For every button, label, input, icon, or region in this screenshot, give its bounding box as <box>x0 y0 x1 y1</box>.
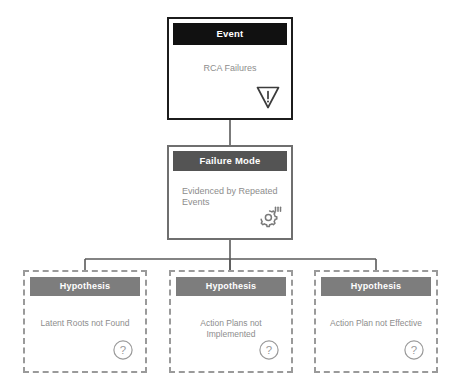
svg-text:?: ? <box>411 344 417 356</box>
gear-motion-icon <box>254 203 282 231</box>
node-hypothesis-3[interactable]: Hypothesis Action Plan not Effective ? <box>314 270 438 373</box>
node-hypothesis-3-text: Action Plan not Effective <box>329 318 423 329</box>
node-hypothesis-1-text: Latent Roots not Found <box>38 318 132 329</box>
svg-text:?: ? <box>120 344 126 356</box>
node-hypothesis-2[interactable]: Hypothesis Action Plans not Implemented … <box>169 270 293 373</box>
node-hypothesis-2-body: Action Plans not Implemented ? <box>176 296 286 366</box>
diagram-canvas: Event RCA Failures Failure Mode Evidence… <box>0 0 459 390</box>
node-hypothesis-3-body: Action Plan not Effective ? <box>321 296 431 366</box>
question-circle-icon: ? <box>112 339 134 361</box>
question-circle-icon: ? <box>403 339 425 361</box>
node-hypothesis-1-header: Hypothesis <box>30 277 140 296</box>
node-hypothesis-2-text: Action Plans not Implemented <box>184 318 278 340</box>
node-event-text: RCA Failures <box>183 63 277 75</box>
node-hypothesis-1[interactable]: Hypothesis Latent Roots not Found ? <box>23 270 147 373</box>
node-hypothesis-2-header: Hypothesis <box>176 277 286 296</box>
node-failure-mode-body: Evidenced by Repeated Events <box>173 171 287 235</box>
node-hypothesis-1-body: Latent Roots not Found ? <box>30 296 140 366</box>
node-hypothesis-3-header: Hypothesis <box>321 277 431 296</box>
node-event-body: RCA Failures <box>173 45 287 115</box>
question-circle-icon: ? <box>258 339 280 361</box>
svg-text:?: ? <box>266 344 272 356</box>
node-event[interactable]: Event RCA Failures <box>167 17 293 120</box>
warning-triangle-inverted-icon <box>253 82 283 112</box>
node-failure-mode[interactable]: Failure Mode Evidenced by Repeated Event… <box>167 145 293 240</box>
node-failure-mode-header: Failure Mode <box>173 151 287 171</box>
node-event-header: Event <box>173 23 287 45</box>
